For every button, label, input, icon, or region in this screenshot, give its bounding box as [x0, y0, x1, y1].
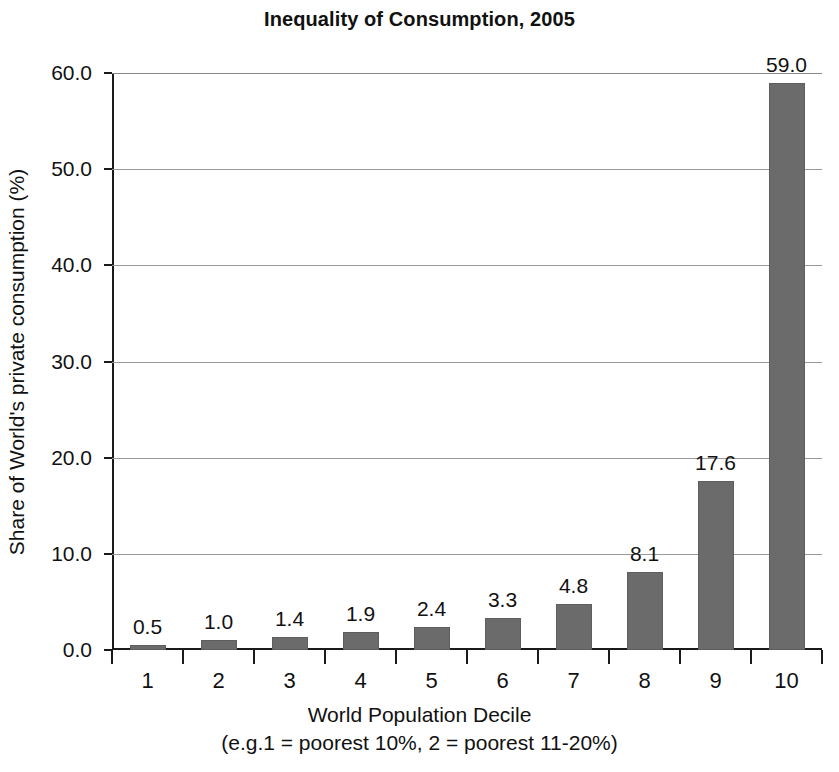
x-axis-tick-mark — [537, 650, 539, 664]
x-axis-tick-mark — [608, 650, 610, 664]
y-axis-tick-label: 50.0 — [2, 157, 92, 181]
x-axis-tick-label: 4 — [321, 668, 401, 694]
y-axis-tick-label: 30.0 — [2, 350, 92, 374]
x-axis-tick-mark — [253, 650, 255, 664]
bar-group: 8.1 — [609, 73, 680, 650]
bar — [627, 572, 663, 650]
bar — [414, 627, 450, 650]
y-axis-tick-mark — [104, 168, 112, 170]
x-axis-tick-mark — [679, 650, 681, 664]
bar-value-label: 3.3 — [488, 588, 517, 612]
bar — [272, 637, 308, 650]
x-axis-tick-label: 9 — [676, 668, 756, 694]
x-axis-tick-mark — [466, 650, 468, 664]
bar-chart: Inequality of Consumption, 2005 Share of… — [0, 0, 839, 772]
x-axis-tick-mark — [821, 650, 823, 664]
y-axis-tick-mark — [104, 72, 112, 74]
y-axis-tick-label: 20.0 — [2, 446, 92, 470]
bar-group: 17.6 — [680, 73, 751, 650]
bar-group: 1.9 — [325, 73, 396, 650]
bar-group: 1.0 — [183, 73, 254, 650]
y-axis-tick-mark — [104, 361, 112, 363]
bars-layer: 0.51.01.41.92.43.34.88.117.659.0 — [112, 73, 822, 650]
bar — [769, 83, 805, 650]
x-axis-tick-label: 3 — [250, 668, 330, 694]
bar-value-label: 0.5 — [133, 615, 162, 639]
bar-value-label: 2.4 — [417, 597, 446, 621]
x-axis-tick-label: 2 — [179, 668, 259, 694]
bar-value-label: 59.0 — [766, 53, 807, 77]
bar-value-label: 1.4 — [275, 607, 304, 631]
bar-value-label: 1.0 — [204, 610, 233, 634]
x-axis-tick-mark — [395, 650, 397, 664]
y-axis-tick-label: 10.0 — [2, 542, 92, 566]
bar-group: 4.8 — [538, 73, 609, 650]
bar-value-label: 1.9 — [346, 602, 375, 626]
y-axis-tick-mark — [104, 457, 112, 459]
bar-value-label: 17.6 — [695, 451, 736, 475]
bar-group: 2.4 — [396, 73, 467, 650]
bar-group: 59.0 — [751, 73, 822, 650]
bar — [556, 604, 592, 650]
x-axis-subtitle: (e.g.1 = poorest 10%, 2 = poorest 11-20%… — [0, 731, 839, 755]
x-axis-tick-label: 7 — [534, 668, 614, 694]
x-axis-tick-mark — [111, 650, 113, 664]
x-axis-tick-mark — [750, 650, 752, 664]
y-axis-tick-label: 0.0 — [2, 638, 92, 662]
bar — [201, 640, 237, 650]
bar — [698, 481, 734, 650]
x-axis-title: World Population Decile — [0, 703, 839, 727]
x-axis-tick-mark — [182, 650, 184, 664]
bar — [485, 618, 521, 650]
x-axis-tick-label: 10 — [747, 668, 827, 694]
bar — [130, 645, 166, 650]
bar-group: 0.5 — [112, 73, 183, 650]
y-axis-tick-label: 60.0 — [2, 61, 92, 85]
bar-value-label: 4.8 — [559, 574, 588, 598]
chart-title: Inequality of Consumption, 2005 — [0, 8, 839, 31]
bar-group: 1.4 — [254, 73, 325, 650]
y-axis-tick-label: 40.0 — [2, 253, 92, 277]
x-axis-tick-label: 8 — [605, 668, 685, 694]
x-axis-tick-label: 6 — [463, 668, 543, 694]
x-axis-tick-label: 1 — [108, 668, 188, 694]
bar-value-label: 8.1 — [630, 542, 659, 566]
x-axis-tick-label: 5 — [392, 668, 472, 694]
x-axis-tick-mark — [324, 650, 326, 664]
y-axis-tick-mark — [104, 553, 112, 555]
bar-group: 3.3 — [467, 73, 538, 650]
bar — [343, 632, 379, 650]
y-axis-tick-mark — [104, 264, 112, 266]
